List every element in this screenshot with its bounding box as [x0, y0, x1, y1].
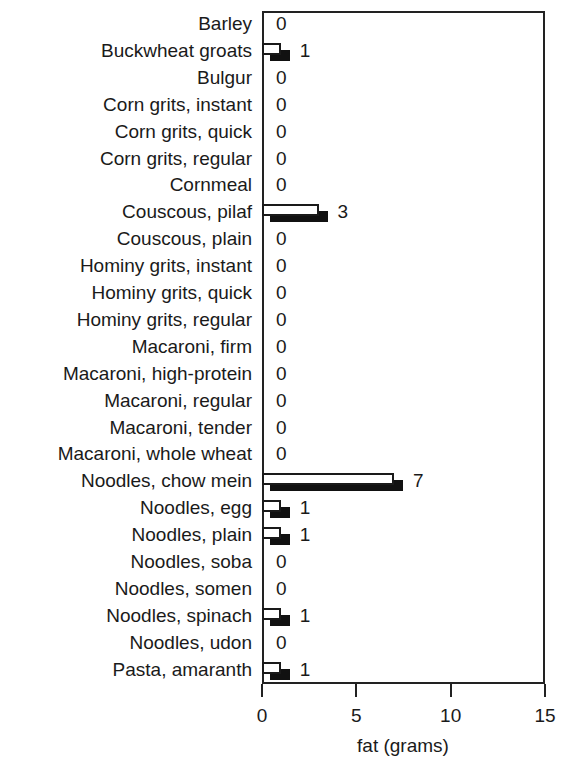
bar [262, 500, 281, 512]
plot-area [262, 11, 545, 684]
value-label: 0 [276, 578, 287, 600]
value-label: 0 [276, 363, 287, 385]
category-label: Noodles, plain [132, 524, 252, 546]
value-label: 0 [276, 309, 287, 331]
x-tick [450, 684, 452, 697]
value-label: 0 [276, 174, 287, 196]
value-label: 3 [338, 201, 349, 223]
category-label: Corn grits, regular [100, 148, 252, 170]
bar [262, 608, 281, 620]
value-label: 0 [276, 94, 287, 116]
value-label: 0 [276, 148, 287, 170]
category-label: Hominy grits, quick [92, 282, 253, 304]
value-label: 1 [300, 497, 311, 519]
value-label: 1 [300, 605, 311, 627]
category-label: Cornmeal [170, 174, 252, 196]
category-label: Couscous, pilaf [122, 201, 252, 223]
fat-bar-chart: Barley0Buckwheat groats1Bulgur0Corn grit… [0, 0, 561, 759]
x-tick [261, 684, 263, 697]
value-label: 0 [276, 417, 287, 439]
category-label: Couscous, plain [117, 228, 252, 250]
value-label: 0 [276, 282, 287, 304]
category-label: Corn grits, quick [115, 121, 252, 143]
value-label: 0 [276, 443, 287, 465]
category-label: Noodles, somen [115, 578, 252, 600]
category-label: Macaroni, whole wheat [58, 443, 252, 465]
bar [262, 204, 319, 216]
value-label: 0 [276, 13, 287, 35]
x-tick-label: 5 [351, 705, 362, 727]
value-label: 7 [413, 470, 424, 492]
x-tick-label: 10 [440, 705, 461, 727]
value-label: 0 [276, 67, 287, 89]
value-label: 0 [276, 390, 287, 412]
value-label: 1 [300, 40, 311, 62]
category-label: Macaroni, tender [109, 417, 252, 439]
category-label: Noodles, egg [140, 497, 252, 519]
x-tick-label: 15 [534, 705, 555, 727]
category-label: Hominy grits, regular [77, 309, 252, 331]
value-label: 0 [276, 551, 287, 573]
x-tick [355, 684, 357, 697]
value-label: 0 [276, 632, 287, 654]
category-label: Macaroni, regular [104, 390, 252, 412]
bar [262, 527, 281, 539]
category-label: Macaroni, firm [132, 336, 252, 358]
category-label: Noodles, spinach [106, 605, 252, 627]
category-label: Macaroni, high-protein [63, 363, 252, 385]
value-label: 0 [276, 255, 287, 277]
category-label: Buckwheat groats [101, 40, 252, 62]
value-label: 0 [276, 336, 287, 358]
value-label: 1 [300, 659, 311, 681]
category-label: Corn grits, instant [103, 94, 252, 116]
bar [262, 473, 394, 485]
category-label: Noodles, udon [129, 632, 252, 654]
x-tick [544, 684, 546, 697]
value-label: 0 [276, 228, 287, 250]
x-tick-label: 0 [257, 705, 268, 727]
category-label: Noodles, soba [131, 551, 252, 573]
bar [262, 662, 281, 674]
category-label: Pasta, amaranth [113, 659, 252, 681]
category-label: Noodles, chow mein [81, 470, 252, 492]
value-label: 1 [300, 524, 311, 546]
category-label: Bulgur [197, 67, 252, 89]
category-label: Hominy grits, instant [80, 255, 252, 277]
x-axis-label: fat (grams) [357, 735, 449, 757]
value-label: 0 [276, 121, 287, 143]
category-label: Barley [198, 13, 252, 35]
bar [262, 43, 281, 55]
